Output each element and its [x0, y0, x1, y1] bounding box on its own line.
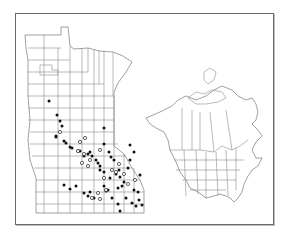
open-record-marker: [110, 168, 113, 171]
open-record-marker: [104, 188, 107, 191]
filled-record-marker: [110, 156, 113, 159]
open-record-marker: [102, 176, 105, 179]
filled-record-marker: [119, 176, 122, 179]
filled-record-marker: [135, 205, 138, 208]
filled-record-marker: [118, 169, 121, 172]
open-record-marker: [76, 149, 79, 152]
filled-record-marker: [61, 125, 64, 128]
filled-record-marker: [75, 185, 78, 188]
minnesota-map: [25, 27, 144, 213]
filled-record-marker: [83, 192, 86, 195]
filled-record-marker: [109, 177, 112, 180]
filled-record-marker: [121, 185, 124, 188]
filled-record-marker: [69, 188, 72, 191]
open-record-marker: [133, 178, 136, 181]
filled-record-marker: [133, 151, 136, 154]
open-record-marker: [88, 158, 91, 161]
open-record-marker: [114, 170, 117, 173]
filled-record-marker: [63, 184, 66, 187]
open-record-marker: [78, 140, 81, 143]
filled-record-marker: [129, 159, 132, 162]
filled-record-marker: [87, 195, 90, 198]
filled-record-marker: [138, 199, 141, 202]
filled-record-marker: [123, 181, 126, 184]
filled-record-marker: [48, 100, 51, 103]
open-record-marker: [122, 172, 125, 175]
filled-record-marker: [59, 120, 62, 123]
filled-record-marker: [71, 147, 74, 150]
open-record-marker: [82, 152, 85, 155]
filled-record-marker: [103, 127, 106, 130]
open-record-marker: [86, 164, 89, 167]
filled-record-marker: [103, 143, 106, 146]
filled-record-marker: [129, 144, 132, 147]
filled-record-marker: [65, 142, 68, 145]
filled-record-marker: [91, 155, 94, 158]
filled-record-marker: [111, 197, 114, 200]
open-record-marker: [98, 148, 101, 151]
open-record-marker: [126, 182, 129, 185]
open-record-marker: [96, 191, 99, 194]
filled-record-marker: [103, 171, 106, 174]
open-record-marker: [58, 130, 61, 133]
filled-record-marker: [127, 167, 130, 170]
open-record-marker: [90, 196, 93, 199]
filled-record-marker: [131, 202, 134, 205]
open-record-marker: [80, 161, 83, 164]
open-record-marker: [83, 136, 86, 139]
north-america-inset: [146, 68, 262, 202]
filled-record-marker: [56, 114, 59, 117]
filled-record-marker: [89, 191, 92, 194]
filled-record-marker: [141, 204, 144, 207]
filled-record-marker: [89, 151, 92, 154]
filled-record-marker: [119, 210, 122, 213]
filled-record-marker: [133, 189, 136, 192]
filled-record-marker: [99, 169, 102, 172]
filled-record-marker: [125, 197, 128, 200]
filled-record-marker: [117, 203, 120, 206]
filled-record-marker: [137, 191, 140, 194]
open-record-marker: [98, 197, 101, 200]
filled-record-marker: [139, 174, 142, 177]
filled-record-marker: [117, 187, 120, 190]
filled-record-marker: [99, 165, 102, 168]
filled-record-marker: [113, 159, 116, 162]
filled-record-marker: [103, 185, 106, 188]
filled-record-marker: [108, 151, 111, 154]
filled-record-marker: [95, 159, 98, 162]
filled-record-marker: [97, 162, 100, 165]
open-record-marker: [117, 162, 120, 165]
distribution-map: [0, 0, 286, 238]
filled-record-marker: [55, 136, 58, 139]
